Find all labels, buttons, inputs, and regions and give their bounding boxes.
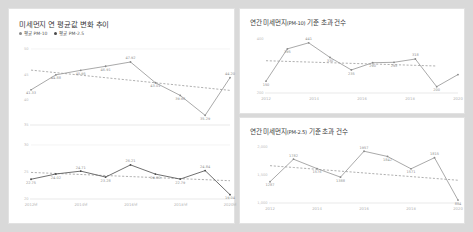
data-label: 24.00 [150,176,160,180]
title-tail: 기준 초과 건수 [305,19,346,27]
data-label: 1388 [336,179,345,183]
data-point [457,74,459,76]
data-label: 45.95 [76,72,86,76]
x-axis-tick: 2014년 [74,202,88,207]
legend-item-pm10: 평균 PM-10 [19,30,47,36]
data-label: 1815 [430,152,439,156]
data-point [130,164,132,166]
y-axis-tick: 2,000 [257,145,268,149]
data-label: 22.75 [26,181,36,185]
data-label: 235 [348,72,355,76]
y-axis-tick: 1,500 [257,173,268,177]
data-label: 44.88 [51,76,61,80]
data-label: 23.28 [101,179,111,183]
screenshot-root: 미세먼지 연 평균값 변화 추이 평균 PM-10 평균 PM-2.5 5045… [0,0,473,232]
data-point [434,157,436,159]
chart-annual-average-pm25: 30252022.7524.0224.7123.2826.2124.0022.7… [9,131,236,221]
data-label: 1576 [313,170,322,174]
title-unit: (PM-2.5) [287,129,307,135]
data-label: 19.04 [225,196,236,200]
data-point [80,170,82,172]
x-axis-tick: 2020 [453,96,463,101]
y-axis-tick: 35 [24,123,29,127]
data-label: 150 [263,83,270,87]
data-label: 26.21 [125,159,135,163]
data-line [31,165,230,195]
x-axis-tick: 2014 [312,206,322,211]
data-label: 46.91 [101,68,111,72]
data-point [293,158,295,160]
data-label: 318 [412,53,419,57]
y-axis-tick: 50 [24,47,29,51]
title-unit: (PM-10) [287,20,306,26]
x-axis-tick: 2012 [261,96,271,101]
data-label: 39.98 [175,97,185,101]
legend-marker-icon [19,32,22,35]
data-label: 330 [327,59,334,63]
trend-line [266,61,437,66]
data-label: 24.84 [200,165,211,169]
trend-line [270,166,458,181]
data-label: 441 [305,37,312,41]
legend: 평균 PM-10 평균 PM-2.5 [19,30,84,36]
y-axis-tick: 25 [24,170,29,174]
data-label: 47.92 [125,56,135,60]
data-label: 1287 [266,183,275,187]
x-axis-tick: 2012년 [25,202,39,207]
legend-label: 평균 PM-2.5 [59,30,84,36]
x-axis-tick: 2016 [359,206,369,211]
data-label: 24.02 [51,176,61,180]
data-label: 1957 [360,146,369,150]
x-axis-tick: 2018 [406,206,416,211]
x-axis-tick: 2018년 [174,202,188,207]
data-point [363,150,365,152]
x-axis-tick: 2016년 [124,202,138,207]
data-label: 395 [284,50,291,54]
data-label: 1571 [407,170,416,174]
data-label: 41.33 [26,91,36,95]
title-tail: 기준 초과 건수 [307,128,348,136]
data-label: 35.29 [200,117,210,121]
x-axis-tick: 2014 [309,96,319,101]
y-axis-tick: 40 [24,98,29,102]
data-point [308,42,310,44]
data-label: 24.71 [76,166,86,170]
data-point [130,61,132,63]
data-label: 293 [391,64,398,68]
title-text: 연간 미세먼지 [250,19,287,27]
data-line [270,151,458,200]
data-label: 1842 [383,158,392,162]
x-axis-tick: 2016 [357,96,367,101]
y-axis-tick: 45 [24,73,29,77]
data-label: 200 [433,88,440,92]
panel-pm10-exceedance: 연간 미세먼지(PM-10) 기준 초과 건수 4002001503954413… [239,8,465,114]
data-line [31,62,230,115]
chart-title-pm25-exceedance: 연간 미세먼지(PM-2.5) 기준 초과 건수 [250,126,347,136]
chart-title-pm10-exceedance: 연간 미세먼지(PM-10) 기준 초과 건수 [250,17,346,27]
data-label: 22.79 [175,181,185,185]
chart-pm25-exceedance: 2,0001,5001,0001287178215761388195718421… [240,137,466,225]
data-point [204,170,206,172]
chart-pm10-exceedance: 4002001503954413302352902933182002012201… [240,29,466,115]
data-point [414,58,416,60]
data-label: 44.20 [225,72,235,76]
x-axis-tick: 2020 [453,206,463,211]
page-title: 미세먼지 연 평균값 변화 추이 [19,18,109,29]
data-point [229,77,231,79]
data-label: 1782 [289,154,298,158]
data-label: 43.01 [150,84,160,88]
data-line [266,43,458,87]
panel-pm25-exceedance: 연간 미세먼지(PM-2.5) 기준 초과 건수 2,0001,5001,000… [239,117,465,224]
legend-marker-icon [54,32,57,35]
legend-label: 평균 PM-10 [24,30,47,36]
x-axis-tick: 2020년 [224,202,238,207]
y-axis-tick: 30 [24,143,29,147]
panel-annual-average: 미세먼지 연 평균값 변화 추이 평균 PM-10 평균 PM-2.5 5045… [8,8,235,224]
title-text: 연간 미세먼지 [250,128,287,136]
chart-annual-average-pm10: 5045403541.3344.8845.9546.9147.9243.0139… [9,39,236,131]
data-label: 290 [369,64,376,68]
x-axis-tick: 2012 [265,206,275,211]
x-axis-tick: 2018 [405,96,415,101]
y-axis-tick: 400 [257,37,265,41]
legend-item-pm25: 평균 PM-2.5 [54,30,84,36]
